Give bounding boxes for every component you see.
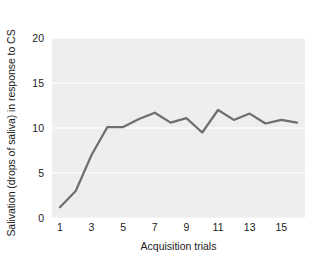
x-tick-label: 15 — [275, 222, 287, 233]
y-tick-label: 20 — [32, 33, 44, 44]
salivation-line — [60, 110, 297, 207]
y-tick-label: 15 — [32, 78, 44, 89]
y-tick-label: 10 — [32, 123, 44, 134]
x-tick-label: 1 — [57, 222, 63, 233]
plot-area — [52, 38, 305, 218]
series-svg — [52, 38, 305, 218]
gridlines — [52, 38, 305, 218]
chart-figure: Salivation (drops of saliva) in response… — [0, 0, 327, 266]
x-axis-title: Acquisition trials — [52, 240, 305, 252]
y-tick-label: 5 — [38, 168, 44, 179]
x-tick-label: 11 — [213, 222, 224, 233]
x-tick-label: 3 — [89, 222, 95, 233]
x-tick-label: 5 — [120, 222, 126, 233]
y-tick-label: 0 — [38, 213, 44, 224]
x-tick-label: 7 — [152, 222, 158, 233]
x-axis-tick-labels: 13579111315 — [52, 222, 305, 238]
x-tick-label: 13 — [244, 222, 256, 233]
y-axis-tick-labels: 05101520 — [0, 38, 48, 218]
x-tick-label: 9 — [183, 222, 189, 233]
